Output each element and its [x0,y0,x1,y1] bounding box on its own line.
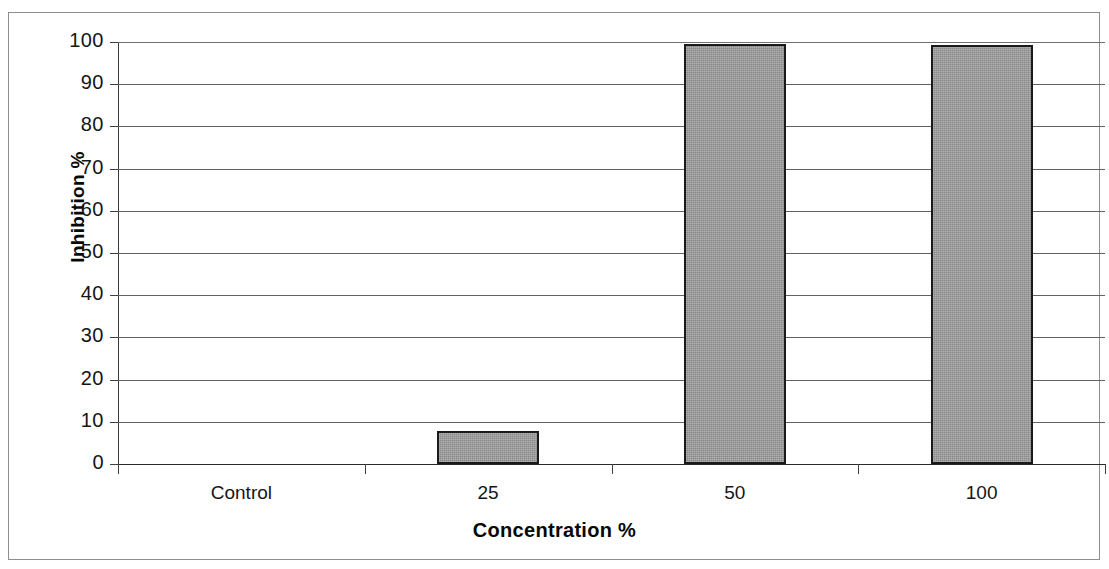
x-tick-label: 25 [365,482,612,504]
x-tick-0 [118,464,119,474]
bar-100 [931,45,1033,464]
y-tick-label: 90 [81,71,104,94]
y-tick-label: 50 [81,240,104,263]
chart-figure: Inhibition % 0102030405060708090100 Cont… [0,0,1109,569]
x-tick-label: 50 [612,482,859,504]
y-tick-label: 100 [69,29,104,52]
x-tick-label: Control [118,482,365,504]
x-axis-title: Concentration % [0,519,1109,542]
x-tick-1 [365,464,366,474]
x-tick-3 [858,464,859,474]
y-tick-label: 10 [81,409,104,432]
x-tick-4 [1105,464,1106,474]
y-tick-label: 40 [81,282,104,305]
y-tick-label: 60 [81,198,104,221]
y-tick-label: 30 [81,324,104,347]
y-tick-label: 20 [81,367,104,390]
y-tick-label: 80 [81,113,104,136]
bar-25 [437,431,539,464]
y-tick-label: 70 [81,156,104,179]
plot-area [118,42,1105,464]
x-tick-2 [612,464,613,474]
x-tick-label: 100 [858,482,1105,504]
gridline-100 [118,42,1105,43]
bar-50 [684,44,786,464]
y-tick-label: 0 [92,451,104,474]
